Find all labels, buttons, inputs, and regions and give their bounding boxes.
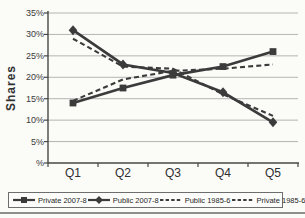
- y-tick-0: %: [16, 158, 44, 168]
- y-tick-5: 5%: [16, 137, 44, 147]
- chart-canvas: [0, 0, 305, 218]
- legend-label: Public 1985-6: [185, 196, 231, 205]
- legend-label: Private 1985-6: [257, 196, 305, 205]
- y-tick-30: 30%: [16, 29, 44, 39]
- marker-square: [70, 100, 77, 107]
- x-tick-q3: Q3: [153, 166, 193, 180]
- page-rule: [0, 212, 305, 214]
- x-tick-q5: Q5: [253, 166, 293, 180]
- marker-square: [270, 48, 277, 55]
- legend-label: Public 2007-8: [113, 196, 159, 205]
- legend: Private 2007-8 Public 2007-8 Public 1985…: [8, 192, 283, 208]
- quintile-shares-chart: Shares 35% 30% 25% 20% 15% 10% 5% % Q1 Q…: [0, 0, 305, 218]
- y-tick-10: 10%: [16, 115, 44, 125]
- legend-key-private-1985-6-icon: [231, 195, 255, 205]
- legend-key-public-2007-8-icon: [87, 195, 111, 205]
- marker-square: [220, 63, 227, 70]
- legend-key-private-2007-8-icon: [12, 195, 36, 205]
- legend-item-public-2007-8: Public 2007-8: [87, 195, 159, 205]
- legend-key-public-1985-6-icon: [159, 195, 183, 205]
- marker-square: [120, 85, 127, 92]
- legend-item-public-1985-6: Public 1985-6: [159, 195, 231, 205]
- x-tick-q4: Q4: [203, 166, 243, 180]
- y-axis-title: Shares: [4, 23, 18, 153]
- y-tick-25: 25%: [16, 51, 44, 61]
- y-tick-35: 35%: [16, 8, 44, 18]
- legend-label: Private 2007-8: [38, 196, 87, 205]
- marker-diamond: [269, 117, 278, 127]
- legend-item-private-1985-6: Private 1985-6: [231, 195, 305, 205]
- x-tick-q1: Q1: [53, 166, 93, 180]
- y-tick-20: 20%: [16, 72, 44, 82]
- legend-item-private-2007-8: Private 2007-8: [12, 195, 87, 205]
- y-tick-15: 15%: [16, 94, 44, 104]
- x-tick-q2: Q2: [103, 166, 143, 180]
